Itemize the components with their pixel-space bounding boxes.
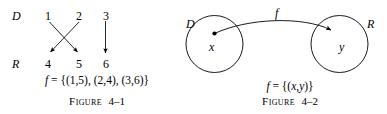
- caption-word: Figure: [69, 95, 102, 107]
- formula-body: = {(1,5), (2,4), (3,6)}: [48, 74, 149, 86]
- arrow-2-to-4: [51, 22, 80, 52]
- domain-element-x: x: [209, 41, 214, 53]
- caption-word: Figure: [262, 95, 295, 107]
- formula-open: = {(: [270, 80, 292, 92]
- caption-number: 4–2: [301, 95, 318, 107]
- figure-4-1-caption: Figure 4–1: [0, 95, 194, 107]
- range-element-y: y: [339, 41, 344, 53]
- figure-4-2-formula: f = {(x,y)}: [193, 80, 387, 92]
- formula-close: )}: [304, 80, 313, 92]
- figure-4-1-formula: f = {(1,5), (2,4), (3,6)}: [0, 74, 194, 86]
- caption-number: 4–1: [108, 95, 125, 107]
- range-label-right: R: [367, 18, 374, 30]
- figure-4-2-caption: Figure 4–2: [193, 95, 387, 107]
- domain-label-right: D: [186, 18, 195, 30]
- function-label-f: f: [275, 7, 278, 19]
- arrow-1-to-5: [50, 22, 78, 52]
- figure-4-1: D R 1 2 3 4 5 6 f = {(1,5), (2,4), (3,6)…: [0, 0, 194, 114]
- figure-4-2: D R x y f f = {(x,y)} Figure 4–2: [193, 0, 387, 114]
